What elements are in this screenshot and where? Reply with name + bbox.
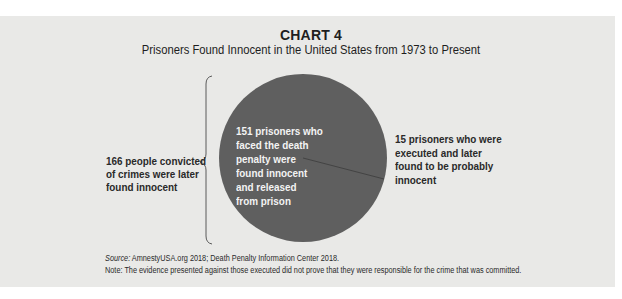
executed-label-line: 15 prisoners who were	[395, 133, 533, 147]
total-label-line: of crimes were later	[106, 168, 218, 181]
total-label-line: found innocent	[106, 181, 218, 194]
released-label-line: and released	[236, 180, 348, 194]
total-label: 166 people convicted of crimes were late…	[106, 155, 218, 194]
source-label: Source:	[105, 253, 130, 263]
released-label-line: from prison	[236, 194, 348, 208]
executed-label: 15 prisoners who were executed and later…	[395, 133, 533, 187]
note-label: Note:	[105, 265, 122, 275]
source-text: AmnestyUSA.org 2018; Death Penalty Infor…	[130, 253, 339, 263]
released-label-line: found innocent	[236, 166, 348, 180]
released-label-line: penalty were	[236, 152, 348, 166]
executed-label-line: executed and later	[395, 147, 533, 161]
source-line: Source: AmnestyUSA.org 2018; Death Penal…	[105, 253, 521, 265]
source-note: Source: AmnestyUSA.org 2018; Death Penal…	[105, 253, 521, 276]
released-label-line: 151 prisoners who	[236, 124, 348, 138]
released-label: 151 prisoners who faced the death penalt…	[236, 124, 348, 208]
total-label-line: 166 people convicted	[106, 155, 218, 168]
released-label-line: faced the death	[236, 138, 348, 152]
note-line: Note: The evidence presented against tho…	[105, 265, 521, 277]
executed-label-line: innocent	[395, 174, 533, 188]
note-text: The evidence presented against those exe…	[122, 265, 521, 275]
executed-label-line: found to be probably	[395, 160, 533, 174]
